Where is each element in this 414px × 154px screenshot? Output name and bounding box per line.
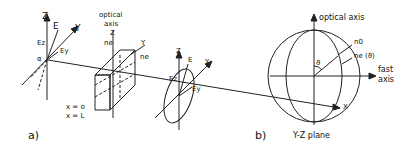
- right-Ey-label: Ey: [192, 86, 201, 93]
- right-y-label: Y: [205, 59, 209, 66]
- left-E-label: E: [53, 22, 59, 31]
- left-y-label: Y: [75, 24, 81, 33]
- x-arrow-icon: [333, 104, 340, 110]
- crystal-ne-top-label: ne: [104, 40, 113, 47]
- ne-theta-label: ne (ϑ): [354, 53, 375, 60]
- right-y-axis: [155, 63, 210, 118]
- left-z-label: Z: [42, 12, 48, 21]
- right-x-label: X: [343, 104, 348, 111]
- right-Ez-label: Ez: [169, 76, 177, 83]
- crystal-y-label: Y: [141, 40, 145, 47]
- x0-label: x = o: [66, 104, 85, 111]
- crystal-front: [95, 75, 110, 110]
- fast-axis-label-1: fast: [378, 66, 393, 73]
- xL-label: x = L: [66, 113, 84, 120]
- panel-a-label: a): [28, 130, 39, 141]
- fast-axis-label-2: axis: [378, 76, 394, 83]
- panel-b-label: b): [255, 130, 266, 141]
- left-y-axis: [22, 28, 77, 85]
- alpha-label: α: [37, 56, 42, 63]
- right-E-label: E: [188, 57, 192, 64]
- crystal-ne-side-label: ne: [140, 54, 149, 61]
- optical-axis-label: optical axis: [319, 14, 364, 21]
- fast-axis-arrow-icon: [369, 73, 376, 79]
- optical-axis-arrow-icon: [311, 14, 317, 21]
- plane-label: Y-Z plane: [293, 132, 330, 139]
- optical-axis-label-1: optical: [99, 12, 123, 19]
- diagram-canvas: [0, 0, 414, 154]
- crystal-z-label: Z: [110, 30, 115, 37]
- theta-label: ϑ: [316, 60, 320, 67]
- optical-axis-label-2: axis: [104, 21, 118, 28]
- left-Ey-label: Ey: [60, 48, 69, 55]
- right-z-label: Z: [176, 48, 181, 55]
- n0-label: n0: [354, 39, 363, 46]
- crystal-side: [110, 50, 135, 110]
- left-Ez-label: Ez: [37, 40, 45, 47]
